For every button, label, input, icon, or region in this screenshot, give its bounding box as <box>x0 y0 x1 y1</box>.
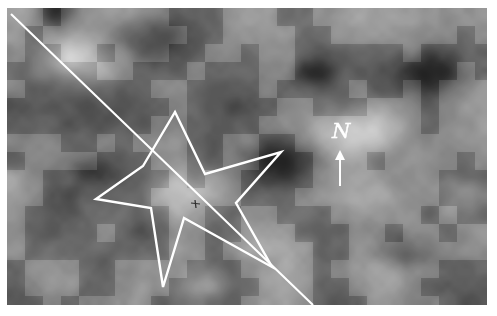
five-pointed-star-outline <box>96 112 281 287</box>
north-arrow-head <box>335 150 345 160</box>
image-figure-frame: N <box>7 8 487 305</box>
annotation-overlay: N <box>7 8 487 305</box>
north-arrow-indicator: N <box>331 119 351 186</box>
center-tick-mark <box>191 200 200 208</box>
figure-page: N <box>0 0 497 316</box>
north-letter-glyph: N <box>331 119 351 143</box>
